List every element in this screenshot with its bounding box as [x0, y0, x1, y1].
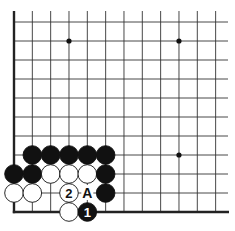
- white-stone-icon: [5, 184, 24, 203]
- black-stone-icon: [5, 165, 24, 184]
- black-stone: [78, 146, 97, 165]
- white-stone-icon: [60, 165, 79, 184]
- white-stone-icon: [78, 165, 97, 184]
- white-stone: [23, 184, 42, 203]
- black-stone-icon: [23, 165, 42, 184]
- black-stone-icon: [96, 146, 115, 165]
- go-board: 21 A: [0, 0, 235, 231]
- move-number-label: 2: [65, 186, 72, 201]
- board-grid: [13, 11, 229, 213]
- black-stone-icon: [23, 146, 42, 165]
- black-stone-icon: [96, 165, 115, 184]
- black-stone: [96, 165, 115, 184]
- white-stone: [60, 203, 79, 222]
- stones-layer: 21: [5, 146, 115, 222]
- white-stone-icon: [41, 165, 60, 184]
- white-stone-icon: [60, 203, 79, 222]
- star-point-icon: [176, 152, 181, 157]
- black-stone: [23, 146, 42, 165]
- white-stone: [60, 165, 79, 184]
- white-stone-icon: [23, 184, 42, 203]
- black-stone: [96, 146, 115, 165]
- black-stone-icon: [41, 146, 60, 165]
- black-stone: [23, 165, 42, 184]
- black-stone-icon: [78, 146, 97, 165]
- black-stone-icon: [96, 184, 115, 203]
- star-point-icon: [176, 38, 181, 43]
- black-stone-icon: [60, 146, 79, 165]
- markers-layer: A: [81, 185, 93, 201]
- star-point-icon: [66, 38, 71, 43]
- black-stone: [41, 146, 60, 165]
- black-stone: 1: [78, 203, 97, 222]
- point-marker-label: A: [82, 185, 92, 201]
- white-stone: [41, 165, 60, 184]
- white-stone: [5, 184, 24, 203]
- move-number-label: 1: [84, 205, 91, 220]
- black-stone: [5, 165, 24, 184]
- white-stone: 2: [60, 184, 79, 203]
- black-stone: [60, 146, 79, 165]
- white-stone: [78, 165, 97, 184]
- black-stone: [96, 184, 115, 203]
